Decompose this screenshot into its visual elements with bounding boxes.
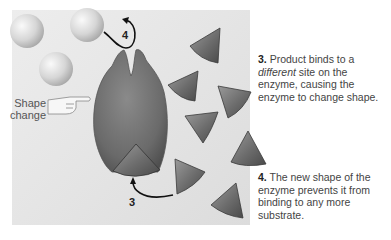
shape-change-label: Shape change — [6, 97, 46, 121]
arrow-4-icon — [104, 20, 135, 48]
substrate-icon — [218, 86, 251, 118]
shape-change-label-line2: change — [6, 109, 46, 121]
substrate-molecules — [168, 28, 266, 218]
step-4-caption: 4. The new shape of the enzyme prevents … — [258, 171, 388, 221]
arrow-3-icon — [133, 182, 173, 197]
pointing-hand-icon — [48, 97, 91, 114]
step-3-emphasis: different — [258, 66, 296, 78]
substrate-icon — [190, 28, 220, 63]
substrate-icon — [211, 183, 243, 218]
step-4-text: The new shape of the enzyme prevents it … — [258, 171, 371, 221]
shape-change-label-line1: Shape — [6, 97, 46, 109]
product-sphere — [10, 14, 44, 48]
arrow-3-label: 3 — [129, 196, 135, 208]
arrow-4-head-icon — [122, 17, 129, 24]
substrate-icon — [185, 112, 218, 143]
arrow-3-head-icon — [130, 177, 136, 184]
step-4-number: 4. — [258, 171, 267, 183]
step-3-caption: 3. Product binds to a different site on … — [258, 53, 388, 103]
product-sphere — [39, 52, 73, 86]
product-sphere — [70, 8, 104, 42]
substrate-icon — [175, 159, 205, 194]
step-3-number: 3. — [258, 53, 267, 65]
substrate-icon — [231, 131, 266, 166]
step-3-text-a: Product binds to a — [270, 53, 355, 65]
substrate-icon — [168, 71, 198, 101]
arrow-4-label: 4 — [122, 29, 129, 41]
